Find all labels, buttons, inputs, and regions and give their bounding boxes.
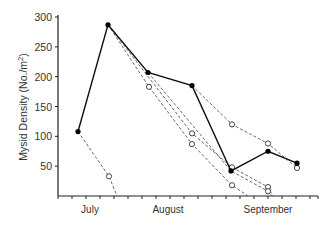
x-month-label: September: [244, 204, 294, 215]
series-line: [78, 132, 117, 196]
x-month-label: July: [81, 204, 99, 215]
y-tick-label: 100: [34, 130, 52, 142]
data-point-filled: [75, 129, 80, 134]
data-point-open: [189, 131, 194, 136]
y-axis-label: Mysid Density (No./m2): [16, 53, 29, 160]
data-point-open: [294, 165, 299, 170]
labels: Mysid Density (No./m2): [16, 53, 29, 160]
data-point-filled: [294, 161, 299, 166]
data-point-filled: [105, 22, 110, 27]
data-point-open: [265, 141, 270, 146]
data-point-open: [229, 122, 234, 127]
data-point-filled: [145, 70, 150, 75]
data-point-filled: [189, 83, 194, 88]
chart-svg: 50100150200250300JulyAugustSeptember Mys…: [0, 0, 330, 226]
data-point-filled: [228, 168, 233, 173]
data-point-open: [229, 183, 234, 188]
data-point-open: [106, 174, 111, 179]
series-line: [78, 25, 297, 171]
series-line: [108, 25, 273, 196]
series-line: [148, 72, 272, 196]
series-line: [192, 86, 297, 168]
data-point-open: [146, 84, 151, 89]
y-tick-label: 150: [34, 101, 52, 113]
data-point-filled: [265, 149, 270, 154]
series-layer: [75, 22, 299, 196]
y-tick-label: 50: [40, 160, 52, 172]
y-tick-label: 300: [34, 11, 52, 23]
x-month-label: August: [152, 204, 183, 215]
y-tick-label: 200: [34, 71, 52, 83]
mysid-density-chart: 50100150200250300JulyAugustSeptember Mys…: [0, 0, 330, 226]
data-point-open: [265, 189, 270, 194]
y-tick-label: 250: [34, 41, 52, 53]
data-point-open: [189, 141, 194, 146]
